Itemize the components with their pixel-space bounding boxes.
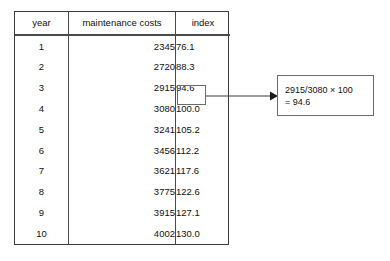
- table-row: 9 3915 127.1: [15, 202, 230, 223]
- cell-year: 10: [15, 223, 69, 244]
- cell-year: 2: [15, 57, 69, 78]
- cell-index: 112.2: [176, 140, 231, 161]
- cell-cost: 3241: [69, 119, 176, 140]
- maintenance-index-table: year maintenance costs index 1 2345 76.1…: [14, 11, 229, 245]
- table-body: 1 2345 76.1 2 2720 88.3 3 2915 94.6 4 30…: [15, 35, 230, 244]
- cell-cost: 3775: [69, 182, 176, 203]
- table-row: 7 3621 117.6: [15, 161, 230, 182]
- cell-index: 122.6: [176, 182, 231, 203]
- formula-text: 2915/3080 × 100 = 94.6: [285, 85, 353, 108]
- cell-year: 7: [15, 161, 69, 182]
- cell-year: 5: [15, 119, 69, 140]
- cell-cost: 3915: [69, 202, 176, 223]
- table-row: 2 2720 88.3: [15, 57, 230, 78]
- cell-index: 88.3: [176, 57, 231, 78]
- cell-index: 127.1: [176, 202, 231, 223]
- cell-year: 4: [15, 98, 69, 119]
- table-row: 8 3775 122.6: [15, 182, 230, 203]
- formula-line-2: = 94.6: [285, 97, 353, 109]
- column-header-year: year: [15, 12, 69, 35]
- cell-cost: 2915: [69, 78, 176, 99]
- formula-line-1: 2915/3080 × 100: [285, 85, 353, 97]
- cell-cost: 4002: [69, 223, 176, 244]
- table-row: 5 3241 105.2: [15, 119, 230, 140]
- column-header-maintenance-costs: maintenance costs: [69, 12, 176, 35]
- formula-callout-box: 2915/3080 × 100 = 94.6: [277, 75, 374, 116]
- cell-cost: 2345: [69, 35, 176, 57]
- table-header: year maintenance costs index: [15, 12, 230, 35]
- table-row: 6 3456 112.2: [15, 140, 230, 161]
- column-header-index: index: [176, 12, 231, 35]
- cell-index: 130.0: [176, 223, 231, 244]
- cell-year: 8: [15, 182, 69, 203]
- table: year maintenance costs index 1 2345 76.1…: [15, 12, 230, 244]
- arrow-right-icon: [206, 88, 278, 104]
- cell-index: 105.2: [176, 119, 231, 140]
- cell-year: 3: [15, 78, 69, 99]
- cell-year: 1: [15, 35, 69, 57]
- cell-index: 117.6: [176, 161, 231, 182]
- table-row: 3 2915 94.6: [15, 78, 230, 99]
- cell-year: 6: [15, 140, 69, 161]
- table-row: 10 4002 130.0: [15, 223, 230, 244]
- cell-year: 9: [15, 202, 69, 223]
- table-row: 1 2345 76.1: [15, 35, 230, 57]
- table-header-row: year maintenance costs index: [15, 12, 230, 35]
- cell-cost: 3080: [69, 98, 176, 119]
- cell-cost: 3456: [69, 140, 176, 161]
- cell-cost: 3621: [69, 161, 176, 182]
- cell-index: 76.1: [176, 35, 231, 57]
- cell-cost: 2720: [69, 57, 176, 78]
- table-row: 4 3080 100.0: [15, 98, 230, 119]
